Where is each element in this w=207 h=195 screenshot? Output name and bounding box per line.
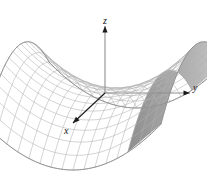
axis-label-z: z bbox=[103, 16, 107, 26]
y-axis-arrowhead-icon bbox=[184, 90, 191, 95]
mesh-line-v bbox=[40, 81, 104, 163]
z-axis-arrowhead-icon bbox=[102, 26, 107, 33]
hyperbolic-paraboloid-plot bbox=[0, 0, 207, 195]
axis-label-x: x bbox=[64, 126, 68, 136]
mesh-line-v bbox=[0, 53, 60, 135]
mesh-line-v bbox=[73, 88, 137, 170]
axis-label-y: y bbox=[193, 83, 197, 93]
surface-wireframe-mesh bbox=[0, 42, 207, 170]
saddle-surface-figure: z y x bbox=[0, 0, 207, 195]
